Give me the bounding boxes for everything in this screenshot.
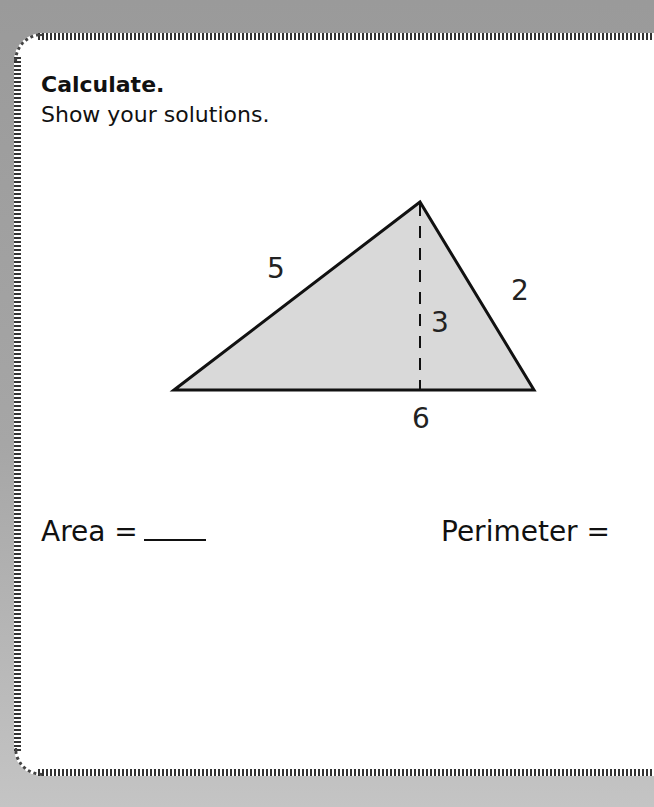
perimeter-label: Perimeter = xyxy=(441,515,610,548)
perforated-edge-bottom xyxy=(38,769,654,776)
triangle-figure: 5 2 3 6 xyxy=(150,190,570,450)
height-label: 3 xyxy=(431,306,449,339)
worksheet-title: Calculate. xyxy=(41,72,164,97)
side-label-right: 2 xyxy=(511,274,529,307)
perforated-edge-top xyxy=(38,33,654,40)
area-answer-blank[interactable] xyxy=(144,515,206,541)
corner-top-left xyxy=(14,33,42,61)
area-question: Area = xyxy=(41,515,206,548)
base-label: 6 xyxy=(412,402,430,435)
perimeter-question: Perimeter = xyxy=(441,515,610,548)
side-label-left: 5 xyxy=(267,252,285,285)
triangle-diagram xyxy=(150,190,570,450)
corner-bottom-left xyxy=(14,748,42,776)
area-label: Area = xyxy=(41,515,138,548)
perforated-edge-left xyxy=(14,57,21,752)
triangle-shape xyxy=(174,202,534,390)
worksheet-instruction: Show your solutions. xyxy=(41,102,269,127)
